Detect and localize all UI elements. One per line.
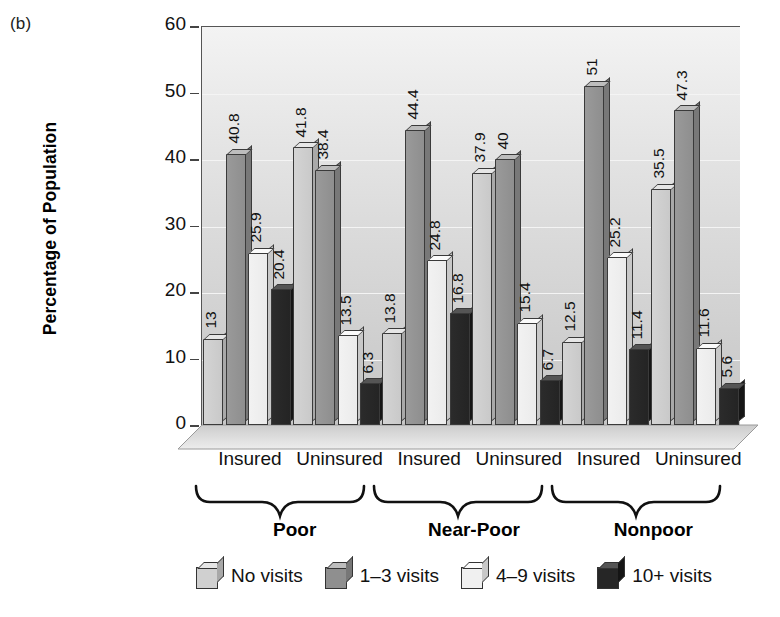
bar-value-label: 13 (203, 311, 219, 328)
bar: 35.5 (651, 189, 671, 425)
bar: 44.4 (405, 130, 425, 425)
bar-face (203, 339, 223, 425)
bar-face (248, 253, 268, 425)
bar-value-label: 35.5 (651, 149, 667, 179)
bar-face (651, 189, 671, 425)
bar-face (629, 349, 649, 425)
bar-value-label: 11.6 (696, 309, 712, 338)
y-axis-title: Percentage of Population (40, 104, 61, 354)
legend-swatch-side (618, 556, 625, 583)
bar-value-label: 38.4 (315, 129, 331, 159)
bar-face (540, 380, 560, 425)
y-axis-tick (190, 425, 199, 427)
y-axis-tick (190, 159, 199, 161)
bar-value-label: 16.8 (449, 273, 465, 303)
bar: 11.4 (629, 349, 649, 425)
bar: 12.5 (562, 342, 582, 425)
legend-item[interactable]: 10+ visits (597, 563, 712, 589)
figure-panel-b: (b) Percentage of Population 01020304050… (0, 0, 780, 617)
chart-base-3d (178, 424, 758, 450)
bar-value-label: 20.4 (270, 249, 286, 279)
bar-value-label: 25.2 (606, 217, 622, 247)
bar-face (405, 130, 425, 425)
bar: 47.3 (674, 110, 694, 425)
bar-value-label: 12.5 (561, 302, 577, 332)
bar: 20.4 (271, 289, 291, 425)
bar-value-label: 6.3 (360, 352, 376, 374)
legend-swatch (196, 567, 218, 589)
y-axis-tick-label: 20 (142, 279, 186, 301)
bar: 25.2 (607, 257, 627, 425)
bar-series-container: 1340.825.920.441.838.413.56.313.844.424.… (202, 26, 740, 425)
bar-value-label: 51 (584, 59, 600, 76)
bar-face (226, 154, 246, 425)
bar: 5.6 (719, 388, 739, 425)
bar: 25.9 (248, 253, 268, 425)
bar-value-label: 24.8 (427, 220, 443, 250)
y-axis-tick (190, 292, 199, 294)
x-axis-group-label: Poor (215, 519, 375, 541)
legend-swatch-side (482, 556, 489, 583)
legend-swatch (461, 567, 483, 589)
bar: 41.8 (293, 147, 313, 425)
chart-legend: No visits1–3 visits4–9 visits10+ visits (196, 563, 712, 589)
bar-value-label: 5.6 (718, 356, 734, 378)
bar-face (696, 348, 716, 425)
bar: 6.7 (540, 380, 560, 425)
group-braces (0, 480, 780, 522)
bar: 15.4 (517, 323, 537, 425)
legend-item[interactable]: 4–9 visits (461, 563, 575, 589)
bar-value-label: 6.7 (539, 349, 555, 371)
x-axis-subgroup-label: Uninsured (628, 448, 768, 470)
x-axis-group-labels: PoorNear-PoorNonpoor (0, 519, 780, 545)
bar: 40.8 (226, 154, 246, 425)
bar-face (607, 257, 627, 425)
y-axis-tick-label: 40 (142, 146, 186, 168)
bar-value-label: 13.5 (337, 295, 353, 325)
bar: 40 (495, 159, 515, 425)
bar: 38.4 (315, 170, 335, 425)
legend-item[interactable]: No visits (196, 563, 303, 589)
bar-face (450, 313, 470, 425)
bar-face (315, 170, 335, 425)
bar-value-label: 41.8 (292, 107, 308, 137)
bar-face (338, 335, 358, 425)
bar: 13.8 (382, 333, 402, 425)
x-axis-group-label: Near-Poor (394, 519, 554, 541)
y-axis-tick (190, 26, 199, 28)
legend-item[interactable]: 1–3 visits (325, 563, 439, 589)
y-axis-tick-label: 10 (142, 346, 186, 368)
bar: 51 (584, 86, 604, 425)
bar-face (517, 323, 537, 425)
x-axis-subgroup-labels: InsuredUninsuredInsuredUninsuredInsuredU… (0, 448, 780, 474)
legend-label: 4–9 visits (496, 565, 575, 587)
legend-swatch (597, 567, 619, 589)
legend-swatch (325, 567, 347, 589)
bar: 13 (203, 339, 223, 425)
bar-face (427, 260, 447, 425)
bar: 11.6 (696, 348, 716, 425)
bar-value-label: 44.4 (404, 90, 420, 120)
legend-label: 10+ visits (632, 565, 712, 587)
bar-face (271, 289, 291, 425)
y-axis-tick (190, 226, 199, 228)
y-axis-tick-label: 30 (142, 213, 186, 235)
bar-face (360, 383, 380, 425)
bar: 13.5 (338, 335, 358, 425)
bar-face (719, 388, 739, 425)
panel-label: (b) (10, 14, 31, 34)
bar-value-label: 15.4 (517, 282, 533, 312)
bar: 6.3 (360, 383, 380, 425)
bar-face (382, 333, 402, 425)
bar-face (584, 86, 604, 425)
legend-label: No visits (231, 565, 303, 587)
legend-label: 1–3 visits (360, 565, 439, 587)
bar-face (293, 147, 313, 425)
legend-swatch-side (346, 556, 353, 583)
bar-value-label: 13.8 (382, 293, 398, 323)
bar-face (674, 110, 694, 425)
bar-value-label: 37.9 (472, 133, 488, 163)
bar-face (495, 159, 515, 425)
y-axis-tick-label: 50 (142, 80, 186, 102)
bar: 24.8 (427, 260, 447, 425)
